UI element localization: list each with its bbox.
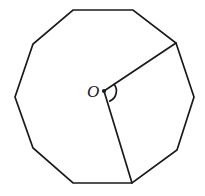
nonagon-diagram: O: [0, 0, 205, 196]
nonagon-outline: [15, 10, 194, 183]
radius-lower-right: [104, 91, 132, 183]
center-label-o: O: [87, 83, 99, 100]
radius-upper-right: [104, 43, 176, 91]
diagram-canvas: [0, 0, 205, 196]
center-point-dot: [102, 89, 106, 93]
